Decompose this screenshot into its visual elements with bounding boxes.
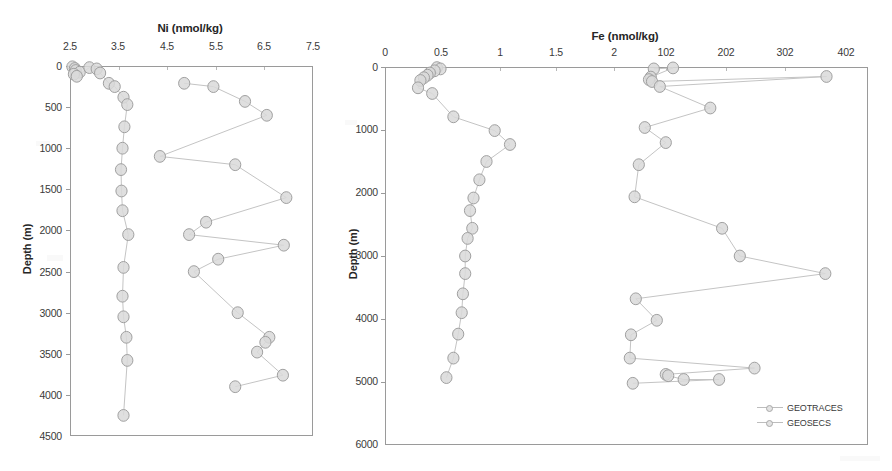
data-point[interactable] xyxy=(629,191,640,203)
data-point[interactable] xyxy=(121,331,132,343)
data-point[interactable] xyxy=(122,99,133,111)
data-point[interactable] xyxy=(412,82,423,94)
data-point[interactable] xyxy=(122,355,133,367)
data-point[interactable] xyxy=(504,139,515,151)
data-point[interactable] xyxy=(462,233,473,245)
data-point[interactable] xyxy=(95,67,106,79)
figure-depth-profiles: Ni (nmol/kg) Depth (m) 2.5 3.5 4.5 5.5 6… xyxy=(0,0,892,471)
data-point[interactable] xyxy=(213,253,224,265)
legend-marker-icon xyxy=(757,403,783,412)
legend-item-geosecs[interactable]: GEOSECS xyxy=(757,415,862,430)
data-point[interactable] xyxy=(717,222,728,234)
data-point[interactable] xyxy=(734,250,745,262)
data-point[interactable] xyxy=(252,346,263,358)
data-point[interactable] xyxy=(448,352,459,364)
data-point[interactable] xyxy=(184,229,195,241)
data-point[interactable] xyxy=(230,381,241,393)
data-point[interactable] xyxy=(281,192,292,204)
data-point[interactable] xyxy=(651,314,662,326)
data-point[interactable] xyxy=(117,205,128,217)
data-point[interactable] xyxy=(460,250,471,262)
data-point[interactable] xyxy=(705,102,716,114)
data-point[interactable] xyxy=(116,185,127,197)
data-point[interactable] xyxy=(277,369,288,381)
data-point[interactable] xyxy=(118,262,129,274)
data-point[interactable] xyxy=(118,410,129,422)
data-point[interactable] xyxy=(448,111,459,123)
data-point[interactable] xyxy=(239,96,250,108)
data-point[interactable] xyxy=(627,377,638,389)
data-point[interactable] xyxy=(633,159,644,171)
series-line xyxy=(72,67,128,416)
data-point[interactable] xyxy=(260,336,271,348)
data-point[interactable] xyxy=(663,370,674,382)
data-point[interactable] xyxy=(117,142,128,154)
data-point[interactable] xyxy=(489,125,500,137)
data-point[interactable] xyxy=(115,164,126,176)
data-point[interactable] xyxy=(119,121,130,133)
data-point[interactable] xyxy=(188,266,199,278)
data-point[interactable] xyxy=(468,192,479,204)
data-point[interactable] xyxy=(154,151,165,163)
legend-item-geotraces[interactable]: GEOTRACES xyxy=(757,400,862,415)
data-point[interactable] xyxy=(457,288,468,300)
data-point[interactable] xyxy=(474,174,485,186)
data-point[interactable] xyxy=(460,268,471,280)
data-point[interactable] xyxy=(118,311,129,323)
data-point[interactable] xyxy=(678,374,689,386)
data-point[interactable] xyxy=(639,122,650,134)
data-point[interactable] xyxy=(201,216,212,228)
data-point[interactable] xyxy=(625,329,636,341)
data-point[interactable] xyxy=(179,77,190,89)
panel-ni: Ni (nmol/kg) Depth (m) 2.5 3.5 4.5 5.5 6… xyxy=(0,0,340,471)
data-point[interactable] xyxy=(667,62,678,74)
data-point[interactable] xyxy=(821,71,832,83)
data-point[interactable] xyxy=(208,81,219,93)
data-point[interactable] xyxy=(660,137,671,149)
data-point[interactable] xyxy=(456,307,467,319)
data-point[interactable] xyxy=(278,239,289,251)
data-point[interactable] xyxy=(749,362,760,374)
legend-label-geotraces: GEOTRACES xyxy=(787,403,843,413)
data-point[interactable] xyxy=(71,70,82,82)
legend-label-geosecs: GEOSECS xyxy=(787,418,831,428)
right-series-shift xyxy=(412,62,832,390)
series-geotraces xyxy=(412,62,515,384)
series-line xyxy=(418,68,510,378)
data-point[interactable] xyxy=(481,156,492,168)
series-line xyxy=(630,68,827,383)
data-point[interactable] xyxy=(261,109,272,121)
series-geosecs xyxy=(624,62,832,389)
data-point[interactable] xyxy=(230,159,241,171)
data-point[interactable] xyxy=(109,81,120,93)
panel-fe: Fe (nmol/kg) Depth (m) 0 0.5 1 1.5 2 102… xyxy=(340,0,892,471)
data-point[interactable] xyxy=(630,293,641,305)
data-point[interactable] xyxy=(714,374,725,386)
data-point[interactable] xyxy=(453,328,464,340)
data-point[interactable] xyxy=(624,352,635,364)
series-geotraces xyxy=(67,61,134,421)
legend-marker-icon xyxy=(757,418,783,427)
data-point[interactable] xyxy=(117,290,128,302)
series-geosecs xyxy=(154,77,292,392)
data-point[interactable] xyxy=(820,268,831,280)
data-point[interactable] xyxy=(464,205,475,217)
data-point[interactable] xyxy=(441,372,452,384)
data-point[interactable] xyxy=(123,229,134,241)
chart-legend: GEOTRACES GEOSECS xyxy=(757,400,862,430)
data-point[interactable] xyxy=(427,88,438,100)
data-point[interactable] xyxy=(654,81,665,93)
data-point[interactable] xyxy=(232,307,243,319)
